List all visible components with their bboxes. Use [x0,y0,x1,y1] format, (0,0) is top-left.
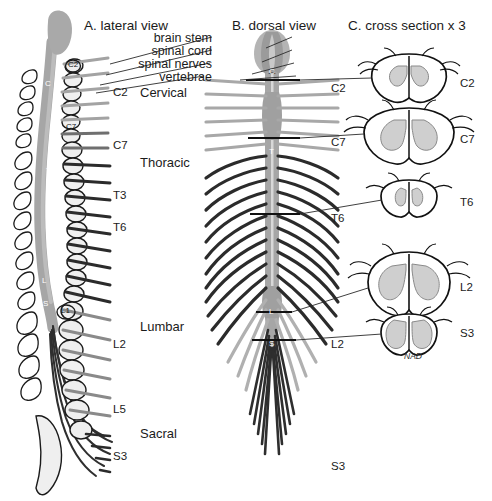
lateral-cord-mark-t: T [46,167,51,175]
dorsal-segment-t6: T6 [331,213,344,225]
lateral-vertebra-mark-c7: C7 [66,123,76,131]
region-lumbar: Lumbar [140,320,184,333]
lateral-cord-mark-s: S [43,300,48,308]
lateral-brain-stem [48,10,72,54]
lateral-segment-l2: L2 [113,339,126,351]
figure-artwork [0,0,492,501]
dorsal-cord-mark-s: S [269,340,274,348]
lateral-cord-mark-c: C [45,80,51,88]
dorsal-segment-l2: L2 [331,339,344,351]
cross-section-label-c2: C2 [460,78,475,90]
lateral-segment-t3: T3 [113,190,126,202]
cross-section-s3 [366,307,452,355]
cross-section-panel [344,48,474,355]
dorsal-segment-c7: C7 [331,137,346,149]
callout-vertebrae: vertebrae [143,71,212,84]
region-sacral: Sacral [140,427,177,440]
artist-signature: NAD [404,352,422,361]
lateral-vertebra-mark-c2: C2 [68,61,78,69]
panel-title-dorsal: B. dorsal view [232,19,316,33]
lateral-segment-s3: S3 [113,451,127,463]
cross-section-label-s3: S3 [460,328,474,340]
dorsal-view-panel [206,30,338,454]
lateral-segment-t6: T6 [113,222,126,234]
lateral-sacrum [36,416,62,495]
callout-spinal-nerves: spinal nerves [137,58,212,71]
lateral-vertebra-mark-l1: L1 [61,307,70,315]
cross-section-label-t6: T6 [460,197,473,209]
panel-title-cross-section: C. cross section x 3 [348,19,466,33]
lateral-segment-c2: C2 [113,87,128,99]
dorsal-segment-s3: S3 [331,461,345,473]
lateral-segment-c7: C7 [113,140,128,152]
cross-section-l2 [348,244,470,316]
callout-brain-stem: brain stem [143,32,212,45]
region-thoracic: Thoracic [140,156,190,169]
lateral-view-panel [14,10,112,494]
dorsal-cord-mark-t: T [269,148,274,156]
cross-section-label-l2: L2 [460,282,473,294]
lateral-segment-l5: L5 [113,404,126,416]
cross-section-t6 [366,173,452,217]
cross-section-c2 [358,48,460,103]
cross-section-c7 [344,100,474,164]
lateral-cord-mark-l: L [42,277,46,285]
callout-spinal-cord: spinal cord [143,45,212,58]
spinal-cord-figure: A. lateral view B. dorsal view C. cross … [0,0,492,501]
cross-section-label-c7: C7 [460,134,475,146]
dorsal-cord-mark-l: L [269,308,273,316]
region-cervical: Cervical [140,86,187,99]
dorsal-segment-c2: C2 [331,83,346,95]
dorsal-cord-mark-c: C [269,68,275,76]
